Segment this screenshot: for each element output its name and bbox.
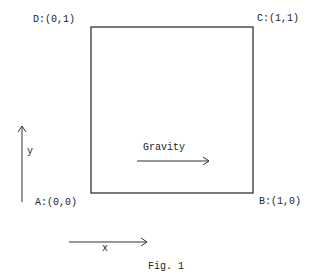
gravity-label: Gravity [143,143,185,153]
x-axis-label: x [102,244,108,254]
y-axis-label: y [27,147,33,157]
corner-label-c: C:(1,1) [257,14,299,24]
corner-label-a: A:(0,0) [35,198,77,208]
unit-square [91,27,253,193]
y-axis-arrow-icon [18,126,26,202]
corner-label-b: B:(1,0) [259,197,301,207]
corner-label-d: D:(0,1) [33,15,75,25]
figure-caption: Fig. 1 [148,262,184,272]
diagram-canvas [0,0,320,277]
gravity-arrow-icon [137,157,209,165]
